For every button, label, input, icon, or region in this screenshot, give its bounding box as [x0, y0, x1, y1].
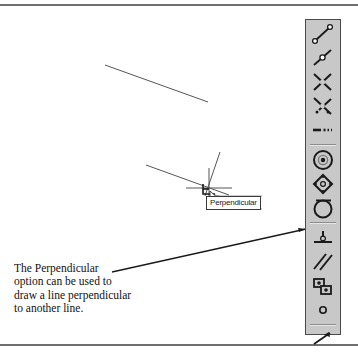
- base-line: [146, 165, 229, 195]
- snap-endpoint-icon: [310, 22, 336, 46]
- snap-center-icon: [310, 148, 336, 172]
- snap-node-icon: [310, 298, 336, 322]
- toolbar-separator: [310, 144, 336, 146]
- toolbar-button-snap-intersection[interactable]: [308, 70, 338, 94]
- snap-quadrant-icon: [310, 172, 336, 196]
- caption-line: option can be used to: [14, 275, 164, 288]
- snap-intersection-icon: [310, 70, 336, 94]
- toolbar-button-snap-insert[interactable]: [308, 274, 338, 298]
- snap-tangent-icon: [310, 196, 336, 220]
- toolbar-separator: [310, 222, 336, 224]
- caption-line: The Perpendicular: [14, 262, 164, 275]
- toolbar-button-snap-quadrant[interactable]: [308, 172, 338, 196]
- caption-line: draw a line perpendicular: [14, 289, 164, 302]
- bottom-divider-rule: [0, 344, 358, 346]
- existing-line: [105, 65, 208, 102]
- snap-insert-icon: [310, 274, 336, 298]
- object-snap-toolbar[interactable]: [305, 19, 341, 335]
- toolbar-button-snap-extension[interactable]: [308, 118, 338, 142]
- snap-apparent-intersect-icon: [310, 94, 336, 118]
- toolbar-button-snap-endpoint[interactable]: [308, 22, 338, 46]
- toolbar-button-snap-midpoint[interactable]: [308, 46, 338, 70]
- toolbar-button-snap-nearest[interactable]: [308, 328, 338, 352]
- snap-extension-icon: [310, 118, 336, 142]
- snap-nearest-icon: [310, 328, 336, 352]
- figure-caption: The Perpendicular option can be used to …: [14, 262, 164, 316]
- toolbar-button-snap-tangent[interactable]: [308, 196, 338, 220]
- snap-perpendicular-icon: [310, 226, 336, 250]
- snap-parallel-icon: [310, 250, 336, 274]
- caption-line: to another line.: [14, 302, 164, 315]
- toolbar-button-snap-node[interactable]: [308, 298, 338, 322]
- figure-page: Perpendicular The Perpendicular option c…: [0, 0, 358, 352]
- toolbar-separator: [310, 324, 336, 326]
- top-divider-rule: [0, 4, 358, 6]
- snap-tooltip: Perpendicular: [206, 196, 261, 210]
- toolbar-button-snap-perpendicular[interactable]: [308, 226, 338, 250]
- toolbar-button-snap-parallel[interactable]: [308, 250, 338, 274]
- toolbar-button-snap-center[interactable]: [308, 148, 338, 172]
- toolbar-button-snap-apparent-intersect[interactable]: [308, 94, 338, 118]
- snap-midpoint-icon: [310, 46, 336, 70]
